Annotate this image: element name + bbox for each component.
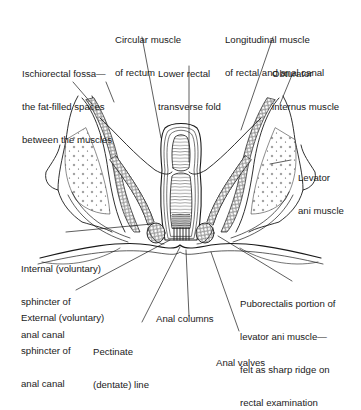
label-line: Internal (voluntary) bbox=[21, 263, 101, 274]
label-line: Anal columns bbox=[156, 313, 214, 324]
label-line: (dentate) line bbox=[93, 379, 149, 390]
label-line: between the muscles bbox=[22, 134, 112, 145]
label-line: transverse fold bbox=[158, 101, 221, 112]
label-line: Levator bbox=[298, 172, 344, 183]
label-line: anal canal bbox=[21, 378, 104, 389]
label-external-sphincter: External (voluntary) sphincter of anal c… bbox=[21, 290, 104, 400]
label-line: Anal valves bbox=[216, 357, 265, 368]
label-line: ani muscle bbox=[298, 205, 344, 216]
label-line: sphincter of bbox=[21, 345, 104, 356]
label-line: Pectinate bbox=[93, 346, 149, 357]
label-levator-ani: Levator ani muscle bbox=[298, 150, 344, 227]
label-obturator-internus: Obturator internus muscle bbox=[272, 46, 339, 123]
label-line: the fat-filled spaces bbox=[22, 101, 112, 112]
label-line: Longitudinal muscle bbox=[225, 34, 324, 45]
label-line: internus muscle bbox=[272, 101, 339, 112]
label-anal-valves: Anal valves bbox=[216, 335, 265, 379]
label-line: Obturator bbox=[272, 68, 339, 79]
label-ischiorectal-fossa: Ischiorectal fossa— the fat-filled space… bbox=[22, 46, 112, 156]
label-line: Lower rectal bbox=[158, 68, 221, 79]
label-line: Circular muscle bbox=[115, 34, 181, 45]
label-line: rectal examination bbox=[240, 397, 335, 408]
label-line: Puborectalis portion of bbox=[240, 298, 335, 309]
label-line: Ischiorectal fossa— bbox=[22, 68, 112, 79]
rectum-wall bbox=[161, 124, 201, 241]
label-line: External (voluntary) bbox=[21, 312, 104, 323]
label-lower-rectal-fold: Lower rectal transverse fold bbox=[158, 46, 221, 123]
label-pectinate-line: Pectinate (dentate) line bbox=[93, 324, 149, 401]
label-anal-columns: Anal columns bbox=[156, 291, 214, 335]
